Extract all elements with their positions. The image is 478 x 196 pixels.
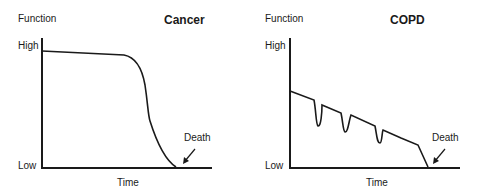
x-axis-label: Time [117, 178, 139, 188]
chart-title: COPD [390, 14, 425, 26]
x-axis-label: Time [366, 178, 388, 188]
death-annotation: Death [184, 133, 211, 143]
y-tick-high: High [265, 41, 286, 51]
copd-trajectory-line [290, 91, 428, 167]
death-annotation: Death [432, 133, 459, 143]
y-axis-label: Function [265, 14, 303, 24]
copd-chart: Function COPD High Low Time Death [238, 0, 477, 196]
chart-title: Cancer [164, 14, 205, 26]
cancer-trajectory-line [42, 51, 176, 167]
y-tick-high: High [18, 41, 39, 51]
y-tick-low: Low [265, 161, 283, 171]
cancer-chart: Function Cancer High Low Time Death [0, 0, 239, 196]
y-axis-label: Function [18, 14, 56, 24]
y-tick-low: Low [18, 161, 36, 171]
